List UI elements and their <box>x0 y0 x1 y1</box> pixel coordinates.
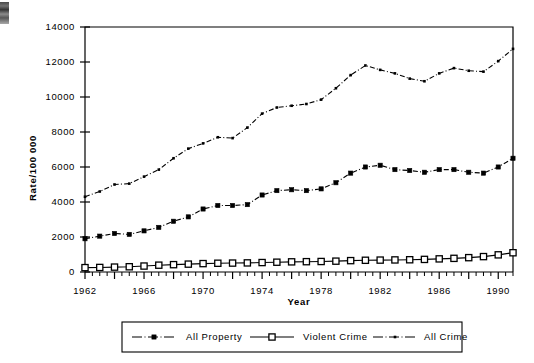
marker-open-square <box>436 256 442 262</box>
marker-open-square <box>303 259 309 265</box>
marker-dot <box>84 195 87 198</box>
y-tick-label: 0 <box>69 266 75 277</box>
marker-open-square <box>377 257 383 263</box>
marker-open-square <box>141 263 147 269</box>
x-axis-title: Year <box>288 296 311 307</box>
marker-filled-square <box>201 207 205 211</box>
legend-label: All Property <box>186 331 242 342</box>
y-axis-title: Rate/100 000 <box>27 135 38 201</box>
marker-filled-square <box>349 171 353 175</box>
marker-dot <box>497 60 500 63</box>
marker-open-square <box>333 258 339 264</box>
marker-open-square <box>82 265 88 271</box>
x-tick-label: 1990 <box>486 285 510 296</box>
chart-figure: Rate/100 000 020004000600080001000012000… <box>0 0 534 363</box>
marker-filled-square <box>378 163 382 167</box>
marker-dot <box>276 106 279 109</box>
series-line <box>85 158 513 239</box>
marker-dot <box>290 104 293 107</box>
x-tick-label: 1962 <box>73 285 97 296</box>
marker-open-square <box>126 264 132 270</box>
marker-open-square <box>244 260 250 266</box>
marker-dot <box>143 175 146 178</box>
legend-label: All Crime <box>424 331 468 342</box>
marker-open-square <box>229 260 235 266</box>
marker-open-square <box>362 257 368 263</box>
marker-filled-square <box>511 156 515 160</box>
marker-open-square <box>185 261 191 267</box>
marker-filled-square <box>157 225 161 229</box>
marker-dot <box>482 70 485 73</box>
marker-filled-square <box>290 188 294 192</box>
marker-filled-square <box>319 187 323 191</box>
marker-filled-square <box>496 165 500 169</box>
marker-dot <box>394 336 397 339</box>
marker-dot <box>453 67 456 70</box>
marker-open-square <box>407 257 413 263</box>
marker-filled-square <box>127 232 131 236</box>
plot-frame <box>85 27 513 272</box>
marker-filled-square <box>216 203 220 207</box>
y-tick-label: 8000 <box>51 126 75 137</box>
x-tick-label: 1970 <box>191 285 215 296</box>
marker-dot <box>172 157 175 160</box>
y-tick-label: 12000 <box>46 56 75 67</box>
marker-open-square <box>156 262 162 268</box>
marker-filled-square <box>98 234 102 238</box>
marker-open-square <box>421 256 427 262</box>
marker-filled-square <box>142 229 146 233</box>
series-1 <box>83 156 515 241</box>
marker-filled-square <box>83 237 87 241</box>
marker-filled-square <box>230 203 234 207</box>
series-line <box>85 49 513 197</box>
marker-filled-square <box>245 203 249 207</box>
marker-dot <box>423 80 426 83</box>
line-chart-canvas: Rate/100 000 020004000600080001000012000… <box>0 0 534 363</box>
marker-open-square <box>259 259 265 265</box>
marker-filled-square <box>112 231 116 235</box>
series-line <box>85 253 513 268</box>
marker-open-square <box>215 260 221 266</box>
marker-open-square <box>97 264 103 270</box>
legend-marker <box>152 335 156 339</box>
marker-dot <box>157 168 160 171</box>
marker-filled-square <box>408 168 412 172</box>
data-series-group <box>82 48 516 271</box>
x-tick-label: 1986 <box>427 285 451 296</box>
marker-open-square <box>348 258 354 264</box>
y-tick-label: 10000 <box>46 91 75 102</box>
marker-dot <box>349 74 352 77</box>
marker-filled-square <box>363 165 367 169</box>
marker-open-square <box>200 261 206 267</box>
marker-dot <box>128 182 131 185</box>
series-2 <box>82 250 516 271</box>
marker-dot <box>379 69 382 72</box>
marker-dot <box>512 48 515 51</box>
marker-open-square <box>274 259 280 265</box>
y-tick-label: 6000 <box>51 161 75 172</box>
marker-filled-square <box>275 189 279 193</box>
marker-filled-square <box>481 171 485 175</box>
marker-filled-square <box>393 168 397 172</box>
x-tick-label: 1982 <box>368 285 392 296</box>
marker-open-square <box>269 334 275 340</box>
marker-dot <box>408 77 411 80</box>
marker-open-square <box>289 259 295 265</box>
marker-open-square <box>318 258 324 264</box>
marker-filled-square <box>467 170 471 174</box>
marker-filled-square <box>452 168 456 172</box>
series-3 <box>84 48 515 198</box>
marker-dot <box>335 87 338 90</box>
marker-open-square <box>495 252 501 258</box>
marker-filled-square <box>304 189 308 193</box>
marker-filled-square <box>334 181 338 185</box>
marker-dot <box>217 136 220 139</box>
chart-legend: All PropertyViolent CrimeAll Crime <box>122 322 468 352</box>
marker-dot <box>202 142 205 145</box>
legend-label: Violent Crime <box>303 331 368 342</box>
marker-filled-square <box>437 168 441 172</box>
x-tick-label: 1978 <box>309 285 333 296</box>
x-tick-label: 1966 <box>132 285 156 296</box>
marker-dot <box>438 72 441 75</box>
marker-filled-square <box>171 219 175 223</box>
